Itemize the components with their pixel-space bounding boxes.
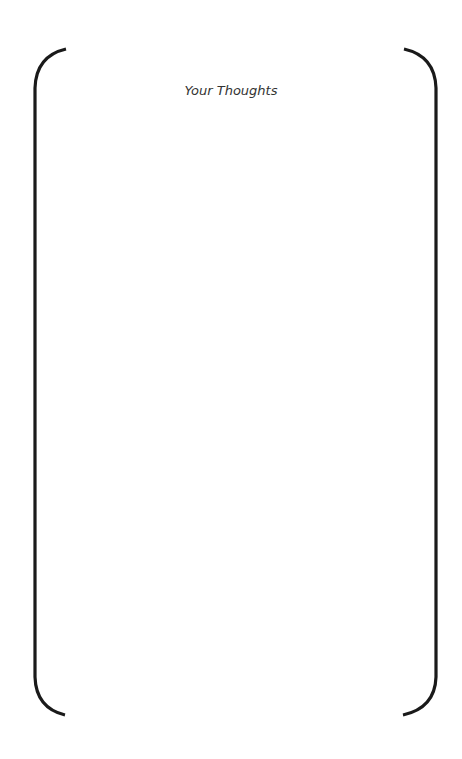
page-title: Your Thoughts: [0, 83, 462, 98]
thoughts-writing-area: [50, 115, 412, 705]
